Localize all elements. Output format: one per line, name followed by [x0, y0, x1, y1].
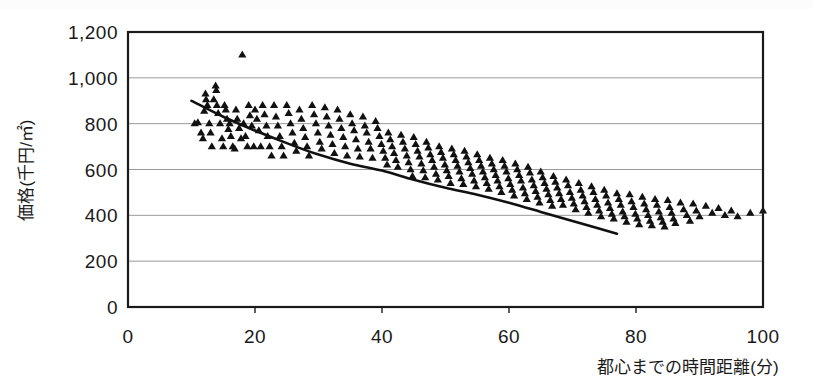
y-tick-label: 200 — [85, 251, 118, 272]
y-tick-label: 0 — [107, 297, 118, 318]
chart-figure: 02004006008001,0001,200 020406080100 価格(… — [0, 0, 813, 387]
x-tick-label: 80 — [625, 326, 647, 347]
y-tick-label: 400 — [85, 205, 118, 226]
scan-artifact-band — [0, 0, 813, 9]
y-tick-label: 1,200 — [68, 22, 118, 43]
y-tick-label: 600 — [85, 160, 118, 181]
x-axis-title: 都心までの時間距離(分) — [597, 358, 778, 377]
x-tick-label: 0 — [122, 326, 133, 347]
x-tick-label: 20 — [244, 326, 266, 347]
x-tick-label: 40 — [371, 326, 393, 347]
y-axis-tick-labels: 02004006008001,0001,200 — [68, 22, 118, 318]
scatter-plot-svg: 02004006008001,0001,200 020406080100 価格(… — [0, 0, 813, 387]
x-tick-label: 60 — [498, 326, 520, 347]
y-axis-title: 価格(千円/㎡) — [17, 119, 36, 220]
x-tick-label: 100 — [746, 326, 779, 347]
y-tick-label: 1,000 — [68, 68, 118, 89]
y-tick-label: 800 — [85, 114, 118, 135]
x-axis-tick-labels: 020406080100 — [122, 326, 779, 347]
